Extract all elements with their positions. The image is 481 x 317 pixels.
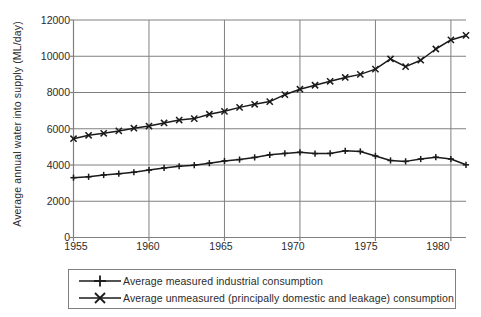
data-point [387, 157, 393, 163]
data-point [191, 162, 197, 168]
data-point [297, 149, 303, 155]
data-point [357, 148, 363, 154]
data-point [161, 165, 167, 171]
chart-legend: Average measured industrial consumption … [68, 269, 456, 309]
data-point [448, 156, 454, 162]
data-point [282, 150, 288, 156]
series-unmeasured [70, 32, 469, 142]
data-series-layer [70, 32, 469, 180]
legend-label-unmeasured: Average unmeasured (principally domestic… [123, 292, 454, 304]
legend-marker-plus-icon [77, 273, 123, 289]
data-point [418, 156, 424, 162]
data-point [252, 154, 258, 160]
data-point [403, 158, 409, 164]
data-point [433, 154, 439, 160]
data-point [146, 167, 152, 173]
data-point [327, 150, 333, 156]
data-point [176, 163, 182, 169]
plot-area [0, 0, 481, 260]
data-point [131, 169, 137, 175]
legend-item-measured: Average measured industrial consumption [69, 272, 323, 290]
legend-marker-cross-icon [77, 290, 123, 306]
data-point [236, 156, 242, 162]
data-point [433, 46, 439, 52]
data-point [342, 148, 348, 154]
chart-figure: Average annual water into supply (ML/day… [0, 0, 481, 317]
data-point [101, 172, 107, 178]
legend-item-unmeasured: Average unmeasured (principally domestic… [69, 289, 454, 307]
data-point [372, 153, 378, 159]
legend-label-measured: Average measured industrial consumption [123, 275, 323, 287]
data-point [267, 152, 273, 158]
data-point [403, 63, 409, 69]
series-line [74, 35, 467, 138]
data-point [70, 175, 76, 181]
axis-lines [70, 20, 466, 241]
data-point [463, 162, 469, 168]
series-measured [70, 148, 469, 181]
data-point [418, 57, 424, 63]
data-point [85, 174, 91, 180]
data-point [387, 56, 393, 62]
data-point [221, 158, 227, 164]
data-point [312, 150, 318, 156]
data-point [116, 171, 122, 177]
